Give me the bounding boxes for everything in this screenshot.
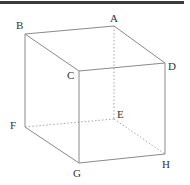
edge-da [114, 26, 165, 63]
vertex-label-g: G [73, 167, 81, 179]
edge-fg [25, 127, 79, 163]
vertex-label-e: E [117, 108, 124, 120]
edge-gh [79, 154, 165, 163]
edge-ef [25, 119, 114, 127]
vertex-label-c: C [67, 69, 74, 81]
vertex-label-b: B [16, 19, 23, 31]
edge-ab [25, 26, 114, 34]
vertex-label-h: H [162, 158, 170, 170]
vertex-label-d: D [168, 60, 176, 72]
edge-cd [79, 63, 165, 71]
vertex-labels: A B C D E F G H [10, 12, 176, 179]
vertex-label-a: A [110, 12, 118, 24]
cube-diagram: A B C D E F G H [0, 0, 190, 185]
hidden-edges [25, 26, 165, 154]
solid-edges [25, 26, 165, 163]
edge-eh [114, 119, 165, 154]
vertex-label-f: F [10, 119, 16, 131]
edge-bc [25, 34, 79, 71]
